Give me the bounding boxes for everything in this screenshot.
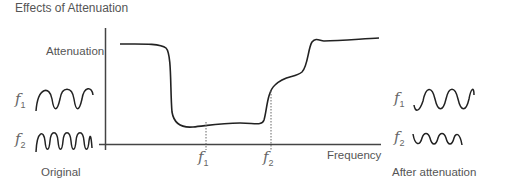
attenuation-curve	[120, 38, 379, 127]
attenuated-f2-label: f2	[394, 128, 405, 148]
original-f1-wave	[36, 89, 93, 111]
attenuated-f1-label: f1	[394, 89, 405, 109]
f2-axis-marker: f2	[263, 148, 274, 168]
original-f1-label: f1	[15, 90, 26, 110]
attenuated-f1-wave	[414, 89, 474, 110]
attenuated-f2-wave	[413, 134, 462, 146]
y-axis-label: Attenuation	[46, 45, 104, 57]
x-axis-label: Frequency	[327, 149, 381, 161]
f1-axis-marker: f1	[198, 148, 209, 168]
attenuation-diagram	[0, 0, 506, 189]
original-caption: Original	[41, 166, 81, 178]
original-f2-wave	[36, 133, 92, 152]
original-f2-label: f2	[15, 130, 26, 150]
after-attenuation-caption: After attenuation	[392, 166, 476, 178]
